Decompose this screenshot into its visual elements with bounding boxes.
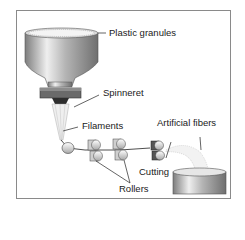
hopper [25, 28, 98, 87]
guide-roller [62, 143, 74, 154]
label-filaments: Filaments [82, 121, 123, 131]
label-rollers: Rollers [119, 184, 149, 194]
label-cutting: Cutting [139, 167, 169, 177]
filaments [52, 104, 69, 140]
label-spinneret: Spinneret [103, 88, 144, 98]
label-artificial-fibers: Artificial fibers [157, 118, 216, 128]
label-plastic-granules: Plastic granules [109, 28, 176, 38]
roller-pair-1 [88, 140, 103, 161]
collection-bin [173, 168, 226, 194]
spinneret [40, 88, 81, 104]
cutting-rollers [151, 141, 165, 160]
fiber-strand [61, 140, 150, 150]
